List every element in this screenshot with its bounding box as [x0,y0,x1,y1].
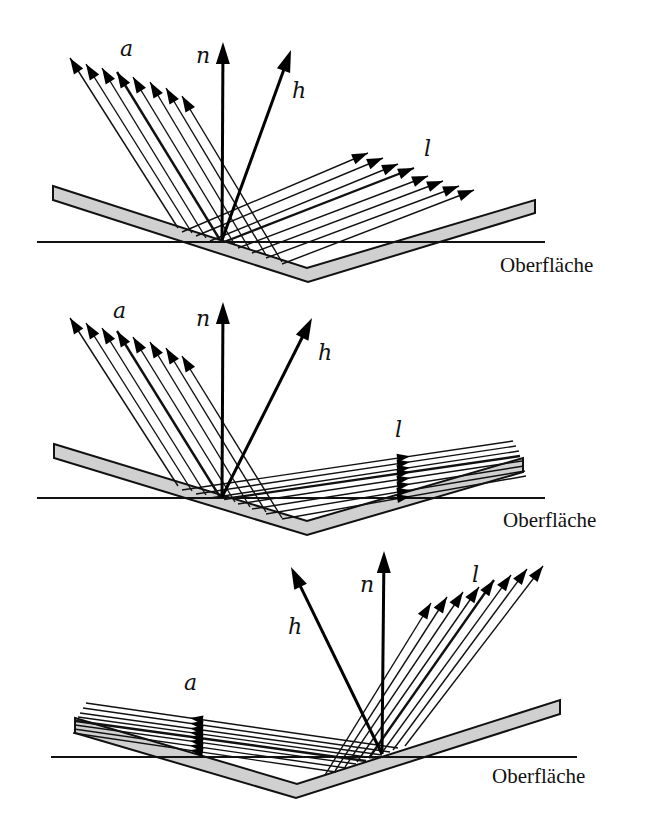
arrowhead-icon [351,153,368,164]
normal-vector-n [382,567,384,754]
label-a: a [184,670,197,695]
arrowhead-icon [86,64,99,81]
arrowhead-icon [366,158,383,169]
arrowhead-icon [117,331,130,348]
label-a: a [113,298,126,323]
label-n: n [360,572,374,597]
half-vector-h [222,332,305,497]
label-l: l [395,417,402,442]
arrowhead-icon [434,597,447,613]
arrowhead-icon [70,318,83,334]
arrowhead-icon [102,68,115,85]
label-n: n [196,306,210,331]
arrowhead-icon [150,342,163,359]
label-n: n [196,43,210,68]
ray-l [266,186,459,258]
surface-slab [53,186,535,282]
arrowhead-icon [133,337,146,354]
label-h: h [318,340,332,365]
ray-l [224,168,414,242]
arrowhead-icon [166,348,179,365]
arrowhead-icon [450,592,464,608]
arrowhead-icon [291,567,307,590]
label-l: l [472,562,479,587]
panel-3: a n h l Oberfläche [51,551,585,798]
arrowhead-icon [117,72,130,89]
arrowhead-icon [513,569,527,585]
panel-1: a n h l Oberfläche [37,36,593,282]
arrowhead-icon [426,181,443,192]
arrowhead-icon [133,77,146,94]
panel-2: a n h l Oberfläche [37,298,596,535]
arrowhead-icon [277,50,291,73]
arrowhead-icon [296,318,312,341]
arrowhead-icon [465,587,479,603]
arrowhead-icon [497,575,511,591]
arrowhead-icon [216,302,230,324]
label-h: h [288,614,302,639]
label-h: h [292,78,306,103]
arrowhead-icon [411,176,428,187]
arrowhead-icon [418,603,431,620]
arrowhead-icon [377,551,391,573]
arrowhead-icon [457,190,474,201]
surface-label: Oberfläche [503,508,596,532]
ray-l [238,176,428,248]
arrowhead-icon [150,82,163,99]
surface-label: Oberfläche [492,764,585,788]
arrowhead-icon [480,580,494,596]
geometry [51,551,577,798]
surface-slab [75,700,560,798]
arrowhead-icon [166,88,179,105]
arrowhead-icon [182,356,195,373]
half-vector-h [298,581,382,754]
normal-vector-n [222,58,223,240]
arrowhead-icon [216,42,230,64]
arrowhead-icon [529,566,543,582]
arrowhead-icon [182,96,195,113]
arrowhead-icon [102,328,115,345]
normal-vector-n [222,318,223,497]
reflection-diagram: a n h l Oberfläche a n h l Oberfläche a … [0,0,663,834]
label-l: l [424,136,431,161]
geometry [37,42,545,282]
geometry [37,302,545,535]
arrowhead-icon [442,186,459,197]
surface-label: Oberfläche [500,253,593,277]
arrowhead-icon [381,164,398,175]
arrowhead-icon [70,58,83,75]
label-a: a [120,36,133,61]
arrowhead-icon [86,323,99,340]
